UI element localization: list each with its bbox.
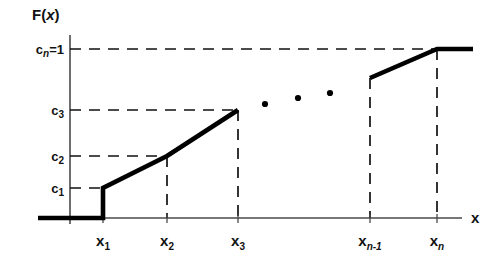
ellipsis-dot-2 [327,90,333,96]
plot-background [0,0,499,275]
cdf-figure: F(x) x c1c2c3cn=1 x1x2x3xn-1xn [0,0,499,275]
ellipsis-dot-0 [262,101,268,107]
cdf-plot-svg: F(x) x c1c2c3cn=1 x1x2x3xn-1xn [0,0,499,275]
ellipsis-dot-1 [295,95,301,101]
x-axis-title: x [471,209,480,226]
y-label-cn: cn=1 [36,42,64,59]
y-axis-title: F(x) [32,6,60,23]
